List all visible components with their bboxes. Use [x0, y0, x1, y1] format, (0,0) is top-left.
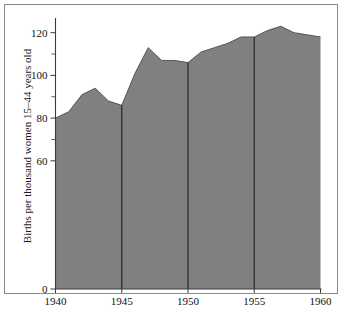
x-tick-label-1945: 1945 — [111, 295, 134, 307]
area-chart-svg: 0608010012019401945195019551960 — [0, 0, 342, 313]
y-tick-label-80: 80 — [37, 112, 49, 124]
x-tick-label-1960: 1960 — [310, 295, 333, 307]
y-tick-label-100: 100 — [31, 69, 48, 81]
x-tick-label-1950: 1950 — [177, 295, 200, 307]
x-tick-label-1955: 1955 — [243, 295, 266, 307]
plot-area: 0608010012019401945195019551960 — [0, 0, 342, 313]
chart-figure: Births per thousand women 15–44 years ol… — [0, 0, 342, 313]
y-tick-label-0: 0 — [42, 283, 48, 295]
y-tick-label-60: 60 — [37, 155, 49, 167]
x-tick-label-1940: 1940 — [45, 295, 68, 307]
y-tick-label-120: 120 — [31, 27, 48, 39]
